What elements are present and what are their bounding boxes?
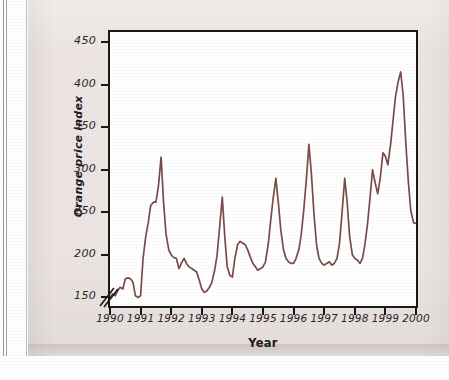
x-tick-mark-1990 [109,308,111,315]
plot-frame [108,30,418,308]
y-tick-label-350: 350 [56,119,96,132]
x-tick-mark-1998 [354,308,356,315]
x-tick-mark-1992 [170,308,172,315]
y-tick-label-150: 150 [56,289,96,302]
y-tick-mark-200 [101,254,108,256]
y-tick-label-450: 450 [56,34,96,47]
x-tick-mark-1999 [384,308,386,315]
y-tick-mark-300 [101,169,108,171]
x-tick-mark-1995 [262,308,264,315]
y-tick-label-250: 250 [56,204,96,217]
x-tick-mark-1994 [231,308,233,315]
series-orange-price-index [110,72,416,297]
data-line-svg [110,32,416,306]
y-tick-mark-400 [101,84,108,86]
y-tick-mark-350 [101,126,108,128]
x-tick-mark-1996 [293,308,295,315]
x-tick-mark-1997 [323,308,325,315]
y-tick-mark-450 [101,41,108,43]
x-axis-label: Year [108,336,418,350]
y-tick-label-400: 400 [56,77,96,90]
line-chart: Orange price index 150200250300350400450… [0,0,449,380]
y-tick-label-300: 300 [56,162,96,175]
y-tick-mark-250 [101,211,108,213]
x-tick-mark-2000 [415,308,417,315]
x-tick-mark-1991 [140,308,142,315]
y-tick-label-200: 200 [56,247,96,260]
x-tick-mark-1993 [201,308,203,315]
y-axis-break-icon [98,286,120,310]
